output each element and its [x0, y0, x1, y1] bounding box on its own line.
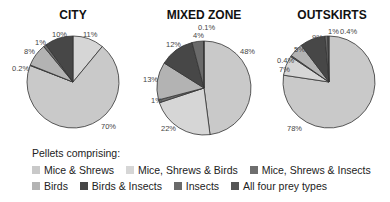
legend-swatch	[126, 166, 134, 174]
legend-item: Birds & Insects	[80, 180, 162, 192]
city-pie	[27, 36, 119, 128]
legend-swatch	[231, 182, 239, 190]
mixed-zone-title: MIXED ZONE	[149, 8, 259, 22]
legend-item: Mice & Shrews	[32, 164, 114, 176]
outskirts-label: 5%	[294, 45, 305, 54]
outskirts-label: 78%	[287, 124, 302, 133]
mixed-label: 48%	[240, 47, 255, 56]
city-label: 11%	[83, 30, 97, 39]
legend-swatch	[250, 166, 258, 174]
city-title: CITY	[18, 8, 128, 22]
legend-item: Mice, Shrews & Insects	[250, 164, 371, 176]
legend-item: Mice, Shrews & Birds	[126, 164, 238, 176]
legend-swatch	[32, 182, 40, 190]
outskirts-label: 9%	[312, 33, 323, 42]
city-label: 70%	[101, 122, 116, 131]
city-label: 8%	[24, 47, 35, 56]
outskirts-title: OUTSKIRTS	[277, 8, 387, 22]
city-label: 1%	[35, 38, 46, 47]
legend-swatch	[80, 182, 88, 190]
outskirts-label: 0.4%	[277, 56, 294, 65]
outskirts-label: 1%	[328, 27, 339, 36]
mixed-label: 22%	[161, 124, 176, 133]
mixed-label: 0.1%	[198, 23, 215, 32]
mixed-label: 12%	[166, 40, 181, 49]
mixed-label: 13%	[143, 75, 158, 84]
mixed-label: 1%	[151, 96, 162, 105]
legend-swatch	[174, 182, 182, 190]
legend-item: Insects	[174, 180, 219, 192]
mixed-label: 4%	[193, 31, 204, 40]
legend-item: Birds	[32, 180, 68, 192]
legend-swatch	[32, 166, 40, 174]
legend-title: Pellets comprising:	[32, 147, 120, 159]
legend-row-2: Birds Birds & Insects Insects All four p…	[32, 180, 336, 192]
legend-row-1: Mice & Shrews Mice, Shrews & Birds Mice,…	[32, 164, 380, 176]
outskirts-label: 7%	[279, 65, 290, 74]
legend-item: All four prey types	[231, 180, 327, 192]
outskirts-label: 0.4%	[340, 27, 357, 36]
city-label: 0.2%	[12, 64, 29, 73]
city-label: 10%	[52, 30, 67, 39]
mixed-zone-pie	[157, 41, 251, 135]
